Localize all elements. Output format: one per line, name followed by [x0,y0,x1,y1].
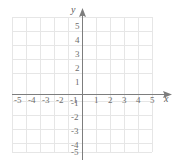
x-tick-label-neg2: -2 [56,96,64,105]
x-tick-label-neg4: -4 [28,96,36,105]
y-tick-label-3: 3 [75,50,80,59]
y-tick-label-neg1: -1 [71,99,79,108]
x-axis-label: x [164,94,168,104]
x-tick-label-5: 5 [150,96,155,105]
y-tick-label-neg3: -3 [71,127,79,136]
y-axis-label: y [71,5,75,15]
x-tick-label-1: 1 [94,96,99,105]
coordinate-plane-figure: y x -5 -4 -3 -2 -1 1 2 3 4 5 5 4 3 2 1 -… [0,0,180,168]
y-tick-label-2: 2 [75,64,80,73]
x-tick-label-3: 3 [122,96,127,105]
y-tick-label-4: 4 [75,36,80,45]
x-tick-label-2: 2 [108,96,113,105]
x-axis [12,91,172,98]
y-axis [79,8,86,160]
x-tick-label-neg3: -3 [42,96,50,105]
y-tick-label-neg2: -2 [71,113,79,122]
coordinate-plane-canvas [0,0,180,168]
x-tick-label-4: 4 [136,96,141,105]
y-tick-label-5: 5 [75,22,80,31]
y-tick-label-1: 1 [75,78,80,87]
y-tick-label-neg5: -5 [71,148,79,157]
x-tick-label-neg5: -5 [14,96,22,105]
